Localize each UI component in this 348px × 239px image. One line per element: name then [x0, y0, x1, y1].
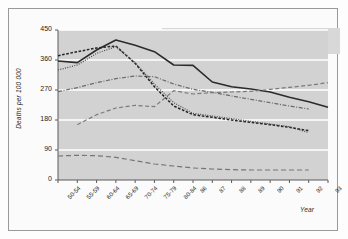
chart-figure: Deaths per 100 000 Year 090180270360450 …	[0, 0, 348, 239]
plot-canvas	[0, 0, 348, 239]
plot-background	[58, 30, 328, 180]
